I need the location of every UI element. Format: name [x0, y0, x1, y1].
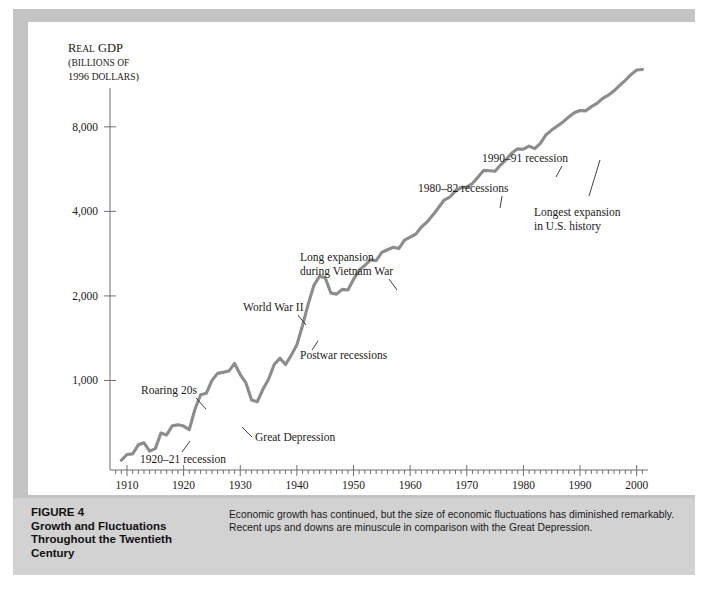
- x-tick-label-1910: 1910: [115, 479, 138, 491]
- figure-caption-body: Economic growth has continued, but the s…: [229, 508, 681, 534]
- x-tick-label-1950: 1950: [342, 479, 365, 491]
- annotation-postwar-recessions: Postwar recessions: [300, 349, 388, 361]
- y-axis-title-line-1: REAL GDP: [68, 41, 123, 55]
- x-tick-label-1980: 1980: [512, 479, 535, 491]
- annotation-recession-1920-21: 1920–21 recession: [140, 453, 226, 465]
- y-axis-title: REAL GDP (BILLIONS OF 1996 DOLLARS): [68, 41, 139, 83]
- y-axis-title-line-2: (BILLIONS OF: [68, 57, 129, 69]
- annotation-leader-recession-1920-21: [182, 441, 190, 452]
- annotation-vietnam-expansion: during Vietnam War: [300, 265, 393, 278]
- y-tick-label-4,000: 4,000: [72, 205, 98, 218]
- x-tick-label-1960: 1960: [399, 479, 422, 491]
- y-axis-title-line-3: 1996 DOLLARS): [68, 71, 139, 83]
- annotation-world-war-ii: World War II: [243, 301, 304, 313]
- chart-axes: [110, 88, 648, 470]
- annotation-longest-expansion: Longest expansion: [534, 206, 621, 219]
- annotation-leader-recession-1990-91: [556, 166, 562, 177]
- x-axis-minor-ticks: [116, 470, 643, 474]
- chart-annotations: 1920–21 recessionRoaring 20sGreat Depres…: [140, 152, 621, 465]
- y-tick-label-2,000: 2,000: [72, 290, 98, 303]
- annotation-vietnam-expansion: Long expansion: [300, 251, 374, 264]
- x-tick-label-1930: 1930: [229, 479, 252, 491]
- x-tick-label-1920: 1920: [172, 479, 195, 491]
- y-axis-ticks: 1,0002,0004,0008,000: [72, 121, 116, 388]
- figure-caption-band: FIGURE 4 Growth and Fluctuations Through…: [13, 498, 695, 575]
- annotation-recessions-1980-82: 1980–82 recessions: [418, 182, 509, 194]
- annotation-leader-longest-expansion: [589, 160, 600, 196]
- annotation-great-depression: Great Depression: [255, 431, 335, 444]
- figure-caption-body-line-2: Recent ups and downs are minuscule in co…: [229, 521, 681, 534]
- x-tick-label-1990: 1990: [569, 479, 592, 491]
- figure-caption-body-line-1: Economic growth has continued, but the s…: [229, 508, 681, 521]
- y-tick-label-1,000: 1,000: [72, 374, 98, 387]
- figure-number-label: FIGURE 4: [31, 506, 221, 520]
- x-tick-label-1970: 1970: [455, 479, 478, 491]
- annotation-longest-expansion: in U.S. history: [534, 220, 601, 233]
- annotation-recession-1990-91: 1990–91 recession: [482, 152, 568, 164]
- annotation-leader-vietnam-expansion: [389, 279, 397, 290]
- x-tick-label-2000: 2000: [625, 479, 648, 491]
- x-tick-label-1940: 1940: [285, 479, 308, 491]
- annotation-leader-recessions-1980-82: [500, 196, 502, 208]
- figure-title-line-1: Growth and Fluctuations: [31, 520, 221, 534]
- y-tick-label-8,000: 8,000: [72, 121, 98, 134]
- figure-root: REAL GDP (BILLIONS OF 1996 DOLLARS) 1,00…: [0, 0, 719, 600]
- annotation-roaring-20s: Roaring 20s: [141, 384, 197, 397]
- figure-title-line-2: Throughout the Twentieth: [31, 533, 221, 547]
- annotation-leader-great-depression: [242, 427, 252, 437]
- figure-caption-title: FIGURE 4 Growth and Fluctuations Through…: [31, 506, 221, 560]
- x-axis-ticks: 1910192019301940195019601970198019902000: [115, 465, 648, 491]
- figure-title-line-3: Century: [31, 547, 221, 561]
